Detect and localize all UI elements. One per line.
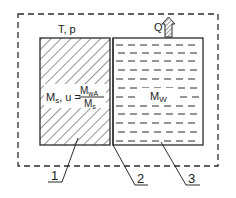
fraction-num-sub: wA <box>87 90 98 97</box>
svg-text:Ms, u =: Ms, u = <box>46 91 81 105</box>
callout-1-label: 1 <box>51 168 58 183</box>
callout-3-label: 3 <box>188 171 195 186</box>
heat-label: Q <box>154 21 163 33</box>
moisture-prefix: , u = <box>59 91 81 103</box>
diagram-canvas: T, p Q Ms, u = MwA Ms MW 1 2 3 <box>0 0 236 198</box>
system-state-label: T, p <box>58 23 76 35</box>
solid-mass-symbol: M <box>46 91 55 103</box>
fraction-den-sub: s <box>92 103 96 110</box>
callout-2-label: 2 <box>137 171 144 186</box>
fraction-den: M <box>84 98 92 109</box>
fraction-num: M <box>80 85 88 96</box>
heat-arrow-icon <box>162 17 175 37</box>
